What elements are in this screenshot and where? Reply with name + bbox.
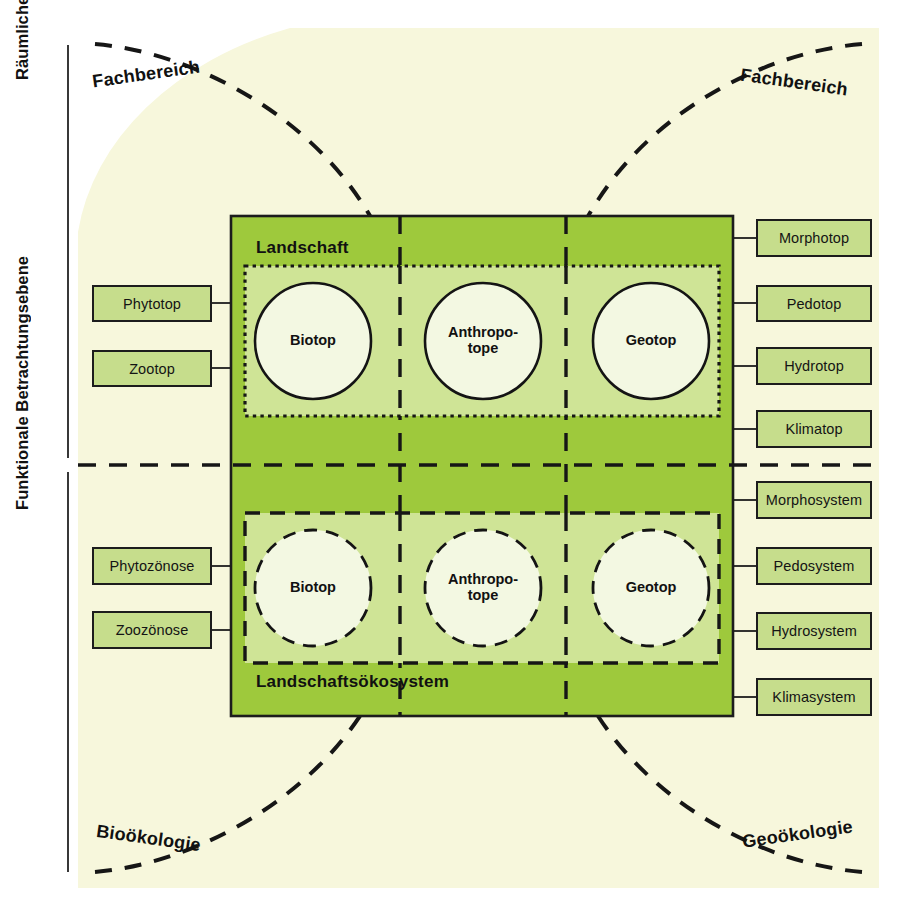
diagram-vector-layer xyxy=(0,0,914,918)
leaf-box-hydrosystem[interactable]: Hydrosystem xyxy=(756,612,872,650)
leaf-box-zootop[interactable]: Zootop xyxy=(92,350,212,387)
node-label-biotop-upper: Biotop xyxy=(290,333,336,349)
leaf-box-zoozoenose[interactable]: Zoozönose xyxy=(92,611,212,649)
leaf-box-phytozoenose[interactable]: Phytozönose xyxy=(92,547,212,585)
leaf-box-phytotop[interactable]: Phytotop xyxy=(92,285,212,322)
leaf-box-morphosystem[interactable]: Morphosystem xyxy=(756,481,872,519)
white-corner-top-right-outer xyxy=(879,28,914,918)
leaf-box-pedotop[interactable]: Pedotop xyxy=(756,285,872,322)
leaf-box-klimatop[interactable]: Klimatop xyxy=(756,410,872,448)
leaf-box-klimasystem[interactable]: Klimasystem xyxy=(756,678,872,716)
node-label-geotop-upper: Geotop xyxy=(626,333,677,349)
axis-label-upper: Räumliche Betrachtungsebene xyxy=(13,0,32,80)
node-label-biotop-lower: Biotop xyxy=(290,580,336,596)
leaf-box-morphotop[interactable]: Morphotop xyxy=(756,219,872,257)
leaf-box-hydrotop[interactable]: Hydrotop xyxy=(756,347,872,385)
node-label-anthropotope-upper: Anthropo- tope xyxy=(448,325,518,356)
node-label-geotop-lower: Geotop xyxy=(626,580,677,596)
zone-title-landschaft: Landschaft xyxy=(256,238,349,258)
axis-label-lower: Funktionale Betrachtungsebene xyxy=(13,165,32,510)
zone-title-landschaftsoekosystem: Landschaftsökosystem xyxy=(256,672,449,692)
diagram-canvas: Räumliche Betrachtungsebene Funktionale … xyxy=(0,0,914,918)
white-strip-bottom xyxy=(0,888,914,918)
leaf-box-pedosystem[interactable]: Pedosystem xyxy=(756,547,872,585)
node-label-anthropotope-lower: Anthropo- tope xyxy=(448,572,518,603)
